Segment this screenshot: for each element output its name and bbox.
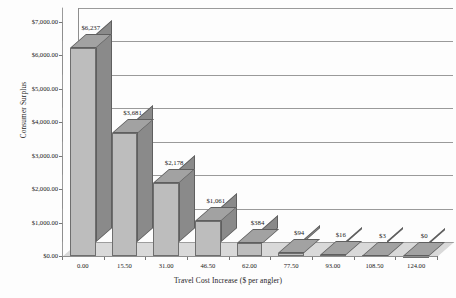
x-tick-label: 15.50 — [102, 262, 148, 269]
y-tick-label: $7,000.00 — [2, 18, 58, 25]
bar-front-face — [195, 221, 221, 256]
x-tick-label: 62.00 — [227, 262, 273, 269]
bar-value-label: $384 — [228, 219, 288, 226]
gridline — [78, 75, 453, 76]
x-tick-label: 124.00 — [393, 262, 439, 269]
bar-column — [70, 34, 112, 256]
y-tick-label: $6,000.00 — [2, 51, 58, 58]
plot-area: $0.00$1,000.00$2,000.00$3,000.00$4,000.0… — [0, 0, 456, 298]
bar-value-label: $1,061 — [186, 197, 246, 204]
bar-front-face — [70, 48, 96, 256]
bar-front-face — [153, 183, 179, 256]
gridline — [78, 41, 453, 42]
gridline — [78, 8, 453, 9]
x-tick-label: 77.50 — [268, 262, 314, 269]
bar-value-label: $0 — [394, 232, 454, 239]
y-tick-label: $0.00 — [2, 252, 58, 259]
bar-value-label: $2,178 — [144, 159, 204, 166]
x-tick-label: 46.50 — [185, 262, 231, 269]
bar-front-face — [112, 133, 138, 256]
bar-front-face — [237, 243, 263, 256]
bar-side-face — [96, 20, 112, 242]
x-tick-label: 93.00 — [310, 262, 356, 269]
bar-value-label: $6,237 — [61, 24, 121, 31]
x-tick-label: 108.50 — [352, 262, 398, 269]
bar-column — [278, 239, 320, 256]
x-axis-line — [62, 256, 437, 257]
bar-value-label: $3,681 — [103, 109, 163, 116]
y-tick-label: $5,000.00 — [2, 85, 58, 92]
bar-top-face — [320, 241, 362, 255]
y-tick-label: $1,000.00 — [2, 219, 58, 226]
bar-top-face — [362, 242, 404, 256]
x-tick-mark — [437, 256, 438, 260]
bar-column — [195, 207, 237, 256]
x-tick-label: 31.00 — [143, 262, 189, 269]
bar-column — [153, 169, 195, 256]
bar-column — [320, 241, 362, 257]
bar-top-face — [403, 242, 445, 256]
bar-top-face — [278, 239, 320, 253]
y-tick-label: $4,000.00 — [2, 118, 58, 125]
x-axis-title: Travel Cost Increase ($ per angler) — [0, 276, 456, 285]
y-tick-label: $3,000.00 — [2, 152, 58, 159]
y-tick-label: $2,000.00 — [2, 185, 58, 192]
chart-page: Consumer Surplus $0.00$1,000.00$2,000.00… — [0, 0, 456, 298]
x-tick-label: 0.00 — [60, 262, 106, 269]
bar-column — [112, 119, 154, 256]
